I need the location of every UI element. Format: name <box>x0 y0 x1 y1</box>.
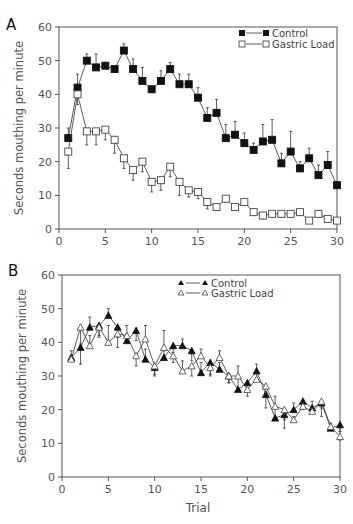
data-point <box>74 91 81 98</box>
data-point <box>204 199 211 206</box>
data-point <box>148 86 155 93</box>
y-tick-label: 40 <box>38 88 52 101</box>
y-axis-label-a: Seconds mouthing per minute <box>12 41 26 215</box>
data-point <box>179 367 186 374</box>
y-tick-label: 10 <box>38 189 52 202</box>
y-tick-label: 30 <box>38 122 52 135</box>
y-tick-label: 60 <box>41 269 55 282</box>
data-point <box>318 398 325 405</box>
data-point <box>133 352 140 359</box>
data-point <box>86 342 93 349</box>
data-point <box>77 324 84 331</box>
data-point <box>216 366 223 373</box>
data-point <box>102 126 109 133</box>
series-control <box>68 309 344 432</box>
x-tick-label: 15 <box>191 235 205 248</box>
x-axis-label: Trial <box>185 501 211 515</box>
series-gastric-load <box>65 91 341 224</box>
plot-series-a <box>65 44 341 224</box>
series-gastric-load <box>68 324 344 440</box>
data-point <box>334 217 341 224</box>
x-tick-label: 0 <box>56 235 63 248</box>
panel-b: B Seconds mouthing per minute 0102030405… <box>8 262 347 515</box>
data-point <box>139 158 146 165</box>
data-point <box>167 66 174 73</box>
data-point <box>235 386 242 393</box>
data-point <box>337 421 344 428</box>
x-tick-label: 10 <box>145 235 159 248</box>
data-point <box>157 77 164 84</box>
data-point <box>83 57 90 64</box>
x-tick-label: 30 <box>330 235 344 248</box>
legend-control-marker-icon <box>239 30 245 36</box>
legend-gastric-marker-icon <box>178 290 184 295</box>
x-tick-label: 30 <box>333 483 347 496</box>
data-point <box>278 210 285 217</box>
data-point <box>281 406 288 413</box>
data-point <box>120 47 127 54</box>
data-point <box>327 423 334 430</box>
x-tick-label: 15 <box>194 483 208 496</box>
data-point <box>188 347 195 354</box>
legend-a: Control Gastric Load <box>239 28 335 50</box>
y-tick-label: 60 <box>38 21 52 34</box>
y-axis-label-b: Seconds mouthing per minute <box>15 289 29 463</box>
data-point <box>306 217 313 224</box>
data-point <box>185 187 192 194</box>
y-tick-label: 40 <box>41 336 55 349</box>
data-point <box>120 155 127 162</box>
data-point <box>204 114 211 121</box>
data-point <box>83 128 90 135</box>
data-point <box>315 210 322 217</box>
panel-label-a: A <box>6 16 17 34</box>
data-point <box>198 352 205 359</box>
legend-control-marker-icon <box>178 280 184 285</box>
legend-b: Control Gastric Load <box>178 278 274 299</box>
data-point <box>216 354 223 361</box>
data-point <box>195 94 202 101</box>
panel-label-b: B <box>8 262 18 280</box>
panel-a: A Seconds mouthing per minute 0102030405… <box>6 16 344 248</box>
data-point <box>259 138 266 145</box>
y-tick-label: 10 <box>41 437 55 450</box>
data-point <box>306 155 313 162</box>
data-point <box>102 62 109 69</box>
y-tick-label: 0 <box>48 471 55 484</box>
data-point <box>262 383 269 390</box>
data-point <box>259 212 266 219</box>
data-point <box>324 162 331 169</box>
data-point <box>93 128 100 135</box>
data-point <box>272 403 279 410</box>
data-point <box>269 210 276 217</box>
data-point <box>232 131 239 138</box>
data-point <box>213 204 220 211</box>
data-point <box>296 209 303 216</box>
legend-gastric-label: Gastric Load <box>272 39 335 50</box>
data-point <box>222 135 229 142</box>
data-point <box>315 172 322 179</box>
data-point <box>241 140 248 147</box>
legend-gastric-label: Gastric Load <box>211 288 274 299</box>
x-tick-label: 25 <box>284 235 298 248</box>
data-point <box>176 178 183 185</box>
plot-series-b <box>68 309 344 440</box>
data-point <box>213 109 220 116</box>
data-point <box>133 327 140 334</box>
data-point <box>241 199 248 206</box>
data-point <box>287 148 294 155</box>
y-tick-label: 50 <box>41 303 55 316</box>
data-point <box>111 66 118 73</box>
y-tick-label: 30 <box>41 370 55 383</box>
data-point <box>142 335 149 342</box>
y-tick-label: 20 <box>41 404 55 417</box>
data-point <box>269 136 276 143</box>
series-control <box>65 44 341 189</box>
axis-ticks-b: 0102030405060051015202530 <box>41 269 347 496</box>
data-point <box>324 215 331 222</box>
data-point <box>148 178 155 185</box>
data-point <box>250 146 257 153</box>
data-point <box>142 356 149 363</box>
y-tick-label: 0 <box>45 223 52 236</box>
data-point <box>287 210 294 217</box>
x-tick-label: 5 <box>105 483 112 496</box>
